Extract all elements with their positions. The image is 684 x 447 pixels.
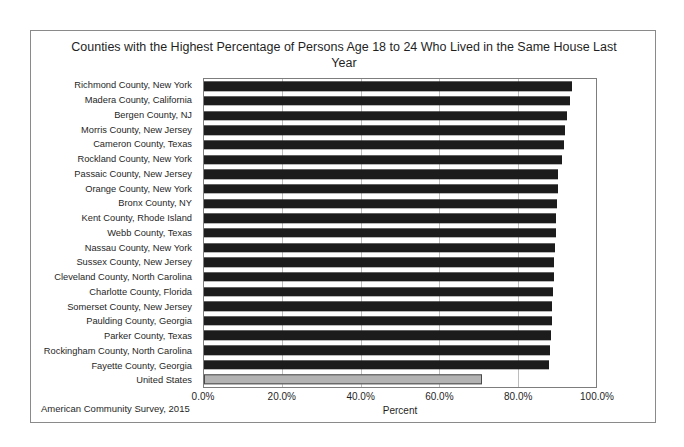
bar [204, 243, 555, 252]
bar-row [204, 328, 596, 343]
bar [204, 301, 552, 310]
bar-row [204, 284, 596, 299]
x-axis-tick-label: 40.0% [346, 391, 374, 402]
x-axis-tick-label: 20.0% [268, 391, 296, 402]
y-axis-label: Kent County, Rhode Island [31, 211, 199, 226]
y-axis-label: Somerset County, New Jersey [31, 299, 199, 314]
bar-row [204, 343, 596, 358]
bar [204, 111, 567, 120]
y-axis-label: Rockland County, New York [31, 152, 199, 167]
bar [204, 82, 572, 91]
bar [204, 199, 557, 208]
bar-row [204, 211, 596, 226]
bar [204, 345, 550, 354]
bar [204, 331, 551, 340]
bar [204, 287, 553, 296]
bar-row [204, 226, 596, 241]
y-axis-label: Orange County, New York [31, 181, 199, 196]
y-axis-label: Paulding County, Georgia [31, 314, 199, 329]
y-axis-label: Morris County, New Jersey [31, 122, 199, 137]
bar-row [204, 108, 596, 123]
y-axis-label: Fayette County, Georgia [31, 358, 199, 373]
y-axis-label: Nassau County, New York [31, 240, 199, 255]
y-axis-label: Cleveland County, North Carolina [31, 270, 199, 285]
bar-row [204, 94, 596, 109]
bar-row [204, 79, 596, 94]
bar [204, 375, 482, 384]
y-axis-label: Cameron County, Texas [31, 137, 199, 152]
y-axis-label: Passaic County, New Jersey [31, 167, 199, 182]
bar [204, 184, 558, 193]
bar [204, 155, 562, 164]
y-axis-label: Bronx County, NY [31, 196, 199, 211]
y-axis-label: Sussex County, New Jersey [31, 255, 199, 270]
x-axis-tick-label: 60.0% [425, 391, 453, 402]
y-axis-label: Rockingham County, North Carolina [31, 344, 199, 359]
chart-frame: Counties with the Highest Percentage of … [30, 30, 656, 423]
bar-row [204, 196, 596, 211]
bar-row [204, 255, 596, 270]
bar-row [204, 357, 596, 372]
bar-row [204, 123, 596, 138]
x-axis-tick-label: 100.0% [580, 391, 614, 402]
y-axis-label: Madera County, California [31, 93, 199, 108]
bar-row [204, 138, 596, 153]
bar [204, 258, 554, 267]
plot-area [203, 78, 597, 388]
chart-title: Counties with the Highest Percentage of … [71, 39, 617, 71]
y-axis-label: Parker County, Texas [31, 329, 199, 344]
bar [204, 272, 554, 281]
bar-row [204, 270, 596, 285]
x-axis-title: Percent [203, 405, 597, 416]
bar [204, 126, 565, 135]
x-axis-tick-labels: 0.0%20.0%40.0%60.0%80.0%100.0% [203, 391, 597, 405]
y-axis-label: Richmond County, New York [31, 78, 199, 93]
source-note: American Community Survey, 2015 [41, 403, 190, 414]
bar [204, 214, 556, 223]
bar-row [204, 152, 596, 167]
bar [204, 140, 564, 149]
bar-row [204, 167, 596, 182]
bar [204, 170, 558, 179]
y-axis-label: Webb County, Texas [31, 226, 199, 241]
bar [204, 96, 570, 105]
bar-row [204, 372, 596, 387]
x-axis-tick-label: 80.0% [504, 391, 532, 402]
y-axis-label: Charlotte County, Florida [31, 285, 199, 300]
bar [204, 316, 552, 325]
bar-row [204, 182, 596, 197]
x-axis-tick-label: 0.0% [192, 391, 215, 402]
y-axis-label: Bergen County, NJ [31, 108, 199, 123]
bar [204, 228, 556, 237]
bar-rows [204, 79, 596, 387]
bar [204, 360, 549, 369]
bar-row [204, 299, 596, 314]
bar-row [204, 240, 596, 255]
bar-row [204, 314, 596, 329]
y-axis-category-labels: Richmond County, New YorkMadera County, … [31, 78, 199, 388]
y-axis-label: United States [31, 373, 199, 388]
